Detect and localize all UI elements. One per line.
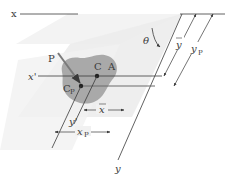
area-label: A (107, 61, 116, 72)
diagram-canvas: x y θ x' P C A C P y' x (0, 0, 225, 176)
y-prime-label: y' (68, 116, 77, 127)
x-p-label: x (77, 126, 83, 137)
x-p-sub: P (84, 131, 89, 139)
theta-label: θ (143, 35, 149, 46)
x-prime-label: x' (28, 71, 36, 82)
x-axis-label: x (11, 8, 17, 19)
y-p-label: y (190, 43, 197, 54)
centroid-label: C (94, 61, 102, 72)
y-axis-label: y (114, 163, 121, 174)
y-p-sub: P (198, 49, 203, 57)
force-p-label: P (48, 53, 55, 64)
x-bar-label: x (99, 104, 105, 115)
center-of-pressure-sub: P (70, 88, 75, 96)
y-bar-label: y (175, 39, 182, 50)
diagram-svg: x y θ x' P C A C P y' x (0, 0, 225, 176)
